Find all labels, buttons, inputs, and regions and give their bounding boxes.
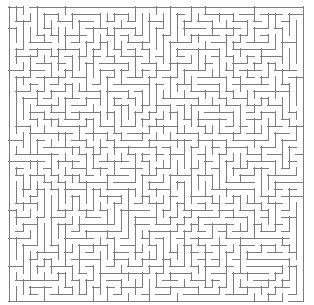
maze-grid[interactable]: [0, 0, 314, 305]
maze-canvas: [0, 0, 314, 305]
